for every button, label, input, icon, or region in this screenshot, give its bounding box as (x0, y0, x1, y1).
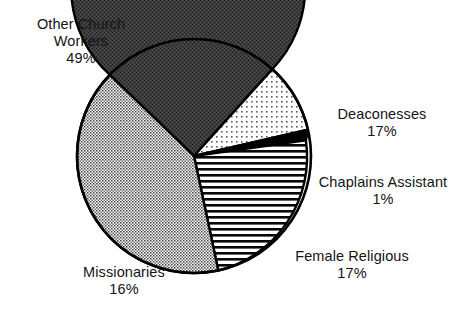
pie-label-deaconesses-name: Deaconesses (316, 106, 448, 123)
pie-label-other-church-workers-line2: Workers (6, 33, 156, 50)
pie-label-other-church-workers: Other Church Workers 49% (6, 16, 156, 67)
pie-label-other-church-workers-line1: Other Church (6, 16, 156, 33)
pie-label-chaplains-assistant: Chaplains Assistant 1% (310, 174, 456, 208)
pie-label-missionaries-percent: 16% (56, 281, 192, 298)
pie-label-deaconesses: Deaconesses 17% (316, 106, 448, 140)
pie-label-chaplains-assistant-name: Chaplains Assistant (310, 174, 456, 191)
pie-label-missionaries: Missionaries 16% (56, 264, 192, 298)
pie-label-other-church-workers-percent: 49% (6, 50, 156, 67)
pie-label-chaplains-assistant-percent: 1% (310, 191, 456, 208)
pie-label-female-religious-name: Female Religious (278, 248, 426, 265)
pie-label-female-religious: Female Religious 17% (278, 248, 426, 282)
pie-label-deaconesses-percent: 17% (316, 123, 448, 140)
pie-label-missionaries-name: Missionaries (56, 264, 192, 281)
pie-chart: Other Church Workers 49% Deaconesses 17%… (0, 0, 456, 312)
pie-label-female-religious-percent: 17% (278, 265, 426, 282)
